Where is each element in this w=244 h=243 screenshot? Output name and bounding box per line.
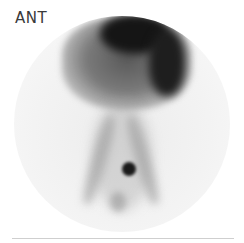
view-label: ANT [15,9,47,27]
dense-uptake-right [149,30,185,96]
lower-faint-spot [110,192,126,212]
scan-field [14,16,230,232]
bottom-rule [12,238,234,239]
focal-uptake-spot [122,162,136,176]
